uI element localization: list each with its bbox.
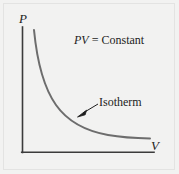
- x-axis-label: V: [151, 139, 159, 152]
- y-axis-label: P: [19, 12, 27, 25]
- isotherm-arrowhead: [78, 110, 87, 117]
- equation-annotation: PV = Constant: [74, 34, 144, 46]
- equation-relation: =: [89, 33, 102, 47]
- equation-symbol: PV: [74, 33, 89, 47]
- isotherm-annotation-label: Isotherm: [99, 96, 142, 108]
- isotherm-figure: P V PV = Constant Isotherm: [0, 0, 179, 174]
- equation-value: Constant: [101, 33, 144, 47]
